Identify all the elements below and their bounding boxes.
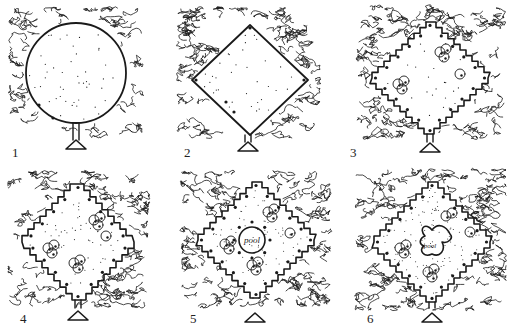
edge-post <box>440 286 443 289</box>
edge-post <box>387 229 390 232</box>
edge-post <box>254 184 257 187</box>
edge-post <box>383 87 386 90</box>
edge-post <box>63 198 66 201</box>
edge-post <box>65 283 68 286</box>
edge-post <box>309 238 312 241</box>
panel-5: pool <box>180 170 332 322</box>
edge-post <box>438 119 441 122</box>
panel-2 <box>176 7 321 151</box>
edge-post <box>485 240 488 243</box>
panel-1 <box>8 7 143 149</box>
edge-post <box>428 129 431 132</box>
edge-post <box>406 108 409 111</box>
edge-post <box>76 186 79 189</box>
entrance-triangle-icon <box>245 313 265 322</box>
entrance-triangle-icon <box>422 313 442 322</box>
panel-label-4: 4 <box>20 312 27 325</box>
panel-6: pool <box>355 168 507 322</box>
circular-clearing <box>26 23 126 123</box>
edge-post <box>428 24 431 27</box>
edge-post <box>451 45 454 48</box>
edge-post <box>90 283 93 286</box>
edge-post <box>264 282 267 285</box>
edge-post <box>88 198 91 201</box>
edge-post <box>396 55 399 58</box>
edge-post <box>243 282 246 285</box>
panel-label-1: 1 <box>12 146 19 159</box>
edge-post <box>430 297 433 300</box>
edge-post <box>464 218 467 221</box>
edge-post <box>430 184 433 187</box>
edge-post <box>300 228 303 231</box>
edge-post <box>112 259 115 262</box>
edge-post <box>474 66 477 69</box>
edge-post <box>376 240 379 243</box>
edge-post <box>398 218 401 221</box>
edge-post <box>275 271 278 274</box>
edge-post <box>474 252 477 255</box>
edge-post <box>221 260 224 263</box>
edge-post <box>397 263 400 266</box>
edge-post <box>408 274 411 277</box>
edge-post <box>266 195 269 198</box>
edge-post <box>472 87 475 90</box>
edge-post <box>419 34 422 37</box>
edge-post <box>385 66 388 69</box>
edge-post <box>52 210 55 213</box>
edge-post <box>462 55 465 58</box>
panel-label-5: 5 <box>190 312 197 325</box>
edge-post <box>288 217 291 220</box>
edge-post <box>200 238 203 241</box>
panel-label-3: 3 <box>350 146 357 159</box>
edge-post <box>440 34 443 37</box>
edge-post <box>211 228 214 231</box>
edge-post <box>462 263 465 266</box>
edge-post <box>29 234 32 237</box>
pool-label: pool <box>243 235 261 245</box>
edge-post <box>417 119 420 122</box>
entrance-triangle-icon <box>420 143 440 152</box>
diagram-canvas: poolpool <box>0 0 516 330</box>
edge-post <box>123 247 126 250</box>
panel-label-6: 6 <box>367 312 374 325</box>
pool-label: pool <box>423 242 437 250</box>
panel-3 <box>356 5 505 152</box>
entrance-triangle-icon <box>68 311 88 320</box>
diagram-sequence: poolpool 1 2 3 4 5 6 <box>0 0 516 330</box>
entrance-triangle-icon <box>238 142 258 151</box>
edge-post <box>31 247 34 250</box>
edge-post <box>222 217 225 220</box>
edge-post <box>254 293 257 296</box>
edge-post <box>442 195 445 198</box>
edge-post <box>41 222 44 225</box>
edge-post <box>374 76 377 79</box>
edge-post <box>476 229 479 232</box>
edge-post <box>76 295 79 298</box>
edge-post <box>232 271 235 274</box>
panel-4 <box>8 170 150 320</box>
edge-post <box>410 207 413 210</box>
edge-post <box>460 98 463 101</box>
edge-post <box>483 76 486 79</box>
edge-post <box>122 234 125 237</box>
entrance-triangle-icon <box>66 140 86 149</box>
panel-label-2: 2 <box>184 146 191 159</box>
edge-post <box>54 271 57 274</box>
edge-post <box>43 259 46 262</box>
edge-post <box>421 195 424 198</box>
edge-post <box>110 222 113 225</box>
edge-post <box>209 249 212 252</box>
edge-post <box>408 45 411 48</box>
edge-post <box>298 249 301 252</box>
edge-post <box>101 271 104 274</box>
edge-post <box>395 98 398 101</box>
edge-post <box>419 286 422 289</box>
